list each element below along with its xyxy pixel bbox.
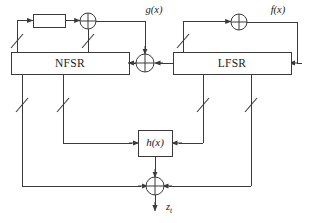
nfsr-feedback-path: [17, 21, 33, 53]
nfsr-tap-block: [33, 14, 65, 27]
nfsr-input-xor: [136, 54, 154, 72]
lfsr-feedback-path: [183, 22, 231, 53]
keystream-output-subscript: t: [170, 205, 173, 214]
f-function-label: f(x): [271, 4, 286, 16]
keystream-output-xor: [146, 177, 164, 195]
lfsr-label: LFSR: [218, 57, 247, 69]
nfsr-feedback-xor: [80, 13, 96, 29]
h-function-label: h(x): [146, 136, 164, 149]
cipher-diagram-canvas: g(x) NFSR: [0, 0, 316, 223]
lfsr-output-buses: [203, 74, 251, 186]
g-function-wire: [96, 21, 145, 55]
keystream-output-label: zt: [165, 201, 173, 214]
grain-cipher-diagram: g(x) NFSR: [0, 0, 316, 223]
nfsr-feedback-tap-branches: [17, 29, 88, 52]
lfsr-feedback-xor: [231, 14, 247, 30]
g-function-label: g(x): [146, 4, 163, 16]
nfsr-label: NFSR: [55, 57, 85, 69]
nfsr-output-buses: [22, 74, 63, 186]
